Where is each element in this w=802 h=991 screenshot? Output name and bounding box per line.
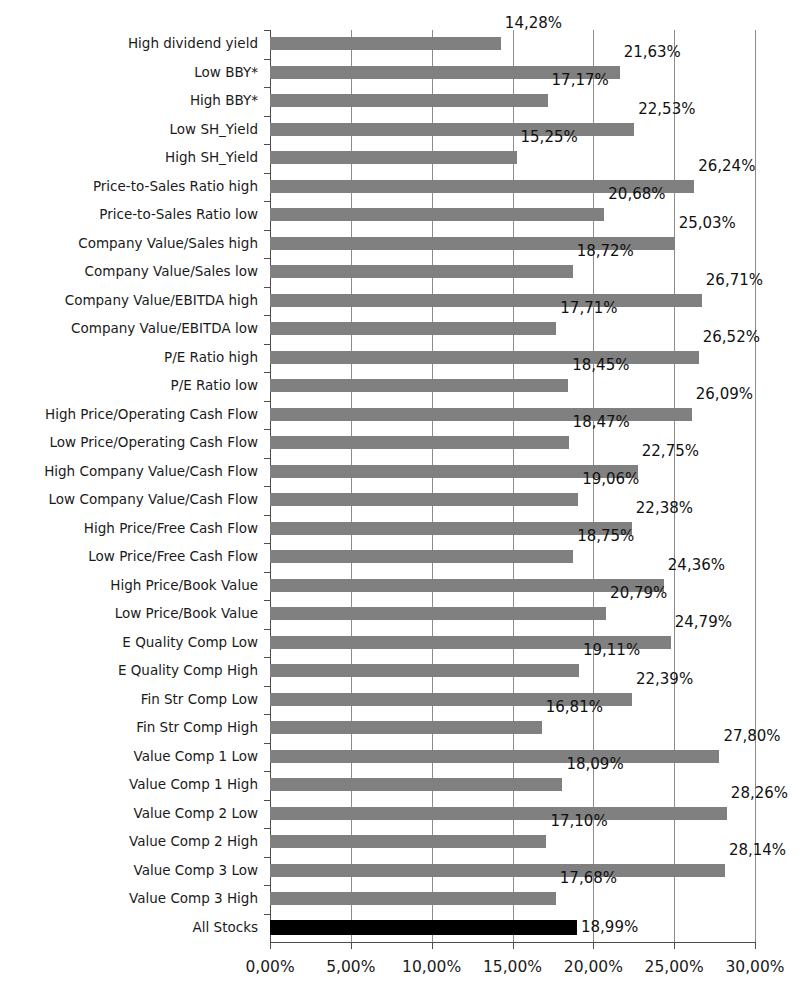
bar-value-label: 24,36% — [668, 558, 725, 573]
category-label: Low Company Value/Cash Flow — [49, 493, 258, 507]
value-axis-tick-label: 30,00% — [725, 958, 784, 976]
category-tick — [264, 686, 270, 687]
category-label: Value Comp 2 High — [129, 835, 258, 849]
category-label: E Quality Comp Low — [122, 636, 258, 650]
category-label: High dividend yield — [128, 37, 258, 51]
bar-highlight — [270, 920, 577, 935]
bar-value-label: 24,79% — [675, 615, 732, 630]
bar-value-label: 20,79% — [610, 586, 667, 601]
bar-row — [270, 629, 755, 658]
value-axis-tick — [513, 942, 514, 949]
bar-value-label: 22,39% — [636, 672, 693, 687]
bar-row — [270, 714, 755, 743]
bar-value-label: 17,68% — [560, 871, 617, 886]
category-tick — [264, 857, 270, 858]
value-axis-tick-label: 20,00% — [564, 958, 623, 976]
bar-value-label: 22,75% — [642, 444, 699, 459]
bar-value-label: 22,53% — [638, 102, 695, 117]
bar-row — [270, 315, 755, 344]
bar-value-label: 28,26% — [731, 786, 788, 801]
category-tick — [264, 87, 270, 88]
bar-row — [270, 828, 755, 857]
category-tick — [264, 771, 270, 772]
category-label: Value Comp 1 Low — [133, 750, 258, 764]
category-label: Low Price/Book Value — [115, 607, 258, 621]
value-axis-tick — [674, 942, 675, 949]
category-tick — [264, 629, 270, 630]
value-axis-tick-label: 5,00% — [326, 958, 375, 976]
category-label: Low BBY* — [194, 66, 258, 80]
bar-value-label: 18,99% — [581, 920, 638, 935]
bar-row — [270, 116, 755, 145]
category-label: High Price/Operating Cash Flow — [45, 408, 258, 422]
value-axis-tick-label: 0,00% — [245, 958, 294, 976]
value-axis-tick — [593, 942, 594, 949]
bar — [270, 778, 562, 791]
bar-value-label: 25,03% — [679, 216, 736, 231]
bar-row — [270, 743, 755, 772]
bar-value-label: 17,17% — [552, 73, 609, 88]
category-tick — [264, 828, 270, 829]
bar-value-label: 18,45% — [572, 358, 629, 373]
bar — [270, 379, 568, 392]
bar-value-label: 17,71% — [560, 301, 617, 316]
bar — [270, 721, 542, 734]
bar — [270, 351, 699, 364]
category-label: High Price/Book Value — [110, 579, 258, 593]
category-tick — [264, 458, 270, 459]
bar-row — [270, 800, 755, 829]
category-label: Fin Str Comp High — [136, 721, 258, 735]
bar-value-label: 26,52% — [703, 330, 760, 345]
category-tick — [264, 287, 270, 288]
category-tick — [264, 600, 270, 601]
bar — [270, 151, 517, 164]
value-axis-tick — [432, 942, 433, 949]
bar-value-label: 18,47% — [573, 415, 630, 430]
category-tick — [264, 30, 270, 31]
value-axis-tick — [755, 942, 756, 949]
bar-row — [270, 686, 755, 715]
bar-row — [270, 258, 755, 287]
value-axis-tick-label: 15,00% — [483, 958, 542, 976]
category-tick — [264, 543, 270, 544]
category-label: All Stocks — [193, 921, 258, 935]
category-label: Price-to-Sales Ratio low — [99, 208, 258, 222]
bar-row — [270, 144, 755, 173]
bar — [270, 294, 702, 307]
category-tick — [264, 315, 270, 316]
category-tick — [264, 429, 270, 430]
category-tick — [264, 230, 270, 231]
bar-value-label: 18,72% — [577, 244, 634, 259]
bar — [270, 123, 634, 136]
category-label: High Company Value/Cash Flow — [44, 465, 258, 479]
bar-value-label: 18,09% — [566, 757, 623, 772]
bar — [270, 750, 719, 763]
category-label: Value Comp 3 High — [129, 892, 258, 906]
bar-row — [270, 857, 755, 886]
value-axis-tick-label: 25,00% — [645, 958, 704, 976]
category-tick — [264, 800, 270, 801]
bar-value-label: 18,75% — [577, 529, 634, 544]
bar — [270, 864, 725, 877]
bar-value-label: 17,10% — [550, 814, 607, 829]
bar-value-label: 19,11% — [583, 643, 640, 658]
category-tick — [264, 486, 270, 487]
value-axis-tick-label: 10,00% — [402, 958, 461, 976]
bar — [270, 37, 501, 50]
category-tick — [264, 572, 270, 573]
bar — [270, 493, 578, 506]
category-tick — [264, 657, 270, 658]
bar-value-label: 19,06% — [582, 472, 639, 487]
bar-row — [270, 515, 755, 544]
category-label: Value Comp 1 High — [129, 778, 258, 792]
category-tick — [264, 372, 270, 373]
bar — [270, 807, 727, 820]
category-label: High SH_Yield — [165, 151, 258, 165]
category-label: E Quality Comp High — [118, 664, 258, 678]
bar-row — [270, 287, 755, 316]
bar-row — [270, 344, 755, 373]
bar-row — [270, 572, 755, 601]
bar-row — [270, 885, 755, 914]
category-tick — [264, 885, 270, 886]
bar-value-label: 27,80% — [723, 729, 780, 744]
